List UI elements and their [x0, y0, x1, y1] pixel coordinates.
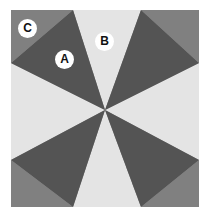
region-label-c: C [18, 19, 37, 38]
figure-root: A B C [0, 0, 210, 217]
region-label-b: B [95, 32, 114, 51]
region-label-a: A [55, 50, 74, 69]
